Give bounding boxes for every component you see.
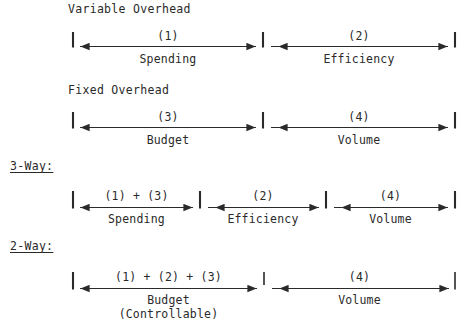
segment-name-variable-efficiency: Efficiency: [263, 53, 455, 66]
segment-name-twoway-budget: Budget: [73, 294, 264, 307]
segment-code-variable-spending: (1): [73, 30, 263, 43]
segment-code-twoway-volume: (4): [264, 271, 455, 284]
segment-name-threeway-efficiency: Efficiency: [200, 213, 326, 226]
segment-code-threeway-volume: (4): [326, 190, 455, 203]
section-header-three-way: 3-Way:: [10, 160, 53, 173]
segment-code-fixed-volume: (4): [263, 111, 455, 124]
segment-name-twoway-volume: Volume: [264, 294, 455, 307]
segment-name-threeway-volume: Volume: [326, 213, 455, 226]
segment-code-threeway-spending: (1) + (3): [73, 190, 200, 203]
segment-code-threeway-efficiency: (2): [200, 190, 326, 203]
segment-code-fixed-budget: (3): [73, 111, 263, 124]
segment-name-fixed-budget: Budget: [73, 134, 263, 147]
segment-code-twoway-budget: (1) + (2) + (3): [73, 271, 264, 284]
segment-name-fixed-volume: Volume: [263, 134, 455, 147]
segment-code-variable-efficiency: (2): [263, 30, 455, 43]
section-header-two-way: 2-Way:: [10, 240, 53, 253]
row-title-variable-overhead: Variable Overhead: [68, 3, 191, 16]
segment-name-variable-spending: Spending: [73, 53, 263, 66]
row-title-fixed-overhead: Fixed Overhead: [68, 84, 169, 97]
segment-name-threeway-spending: Spending: [73, 213, 200, 226]
segment-subname-twoway-controllable: (Controllable): [73, 308, 264, 321]
